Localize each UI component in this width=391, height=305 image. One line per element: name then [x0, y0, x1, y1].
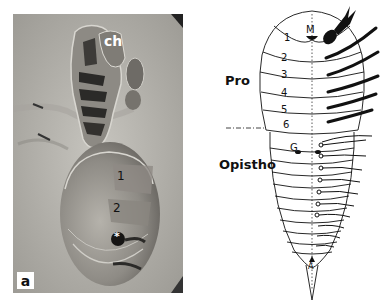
mouth-label: M: [306, 24, 315, 35]
segment-label-5: 5: [281, 104, 287, 115]
gonopore-label: G: [290, 142, 298, 153]
anus-label: A: [308, 262, 313, 271]
segment-label-4: 4: [281, 87, 287, 98]
segment-label-3: 3: [281, 69, 287, 80]
region-label-opisthosoma: Opistho: [219, 157, 276, 172]
segment-label-6: 6: [283, 119, 289, 130]
region-label-prosoma: Pro: [225, 73, 250, 88]
segment-label-2: 2: [281, 52, 287, 63]
segment-label-1: 1: [284, 32, 290, 43]
schematic-diagram: [0, 0, 391, 305]
